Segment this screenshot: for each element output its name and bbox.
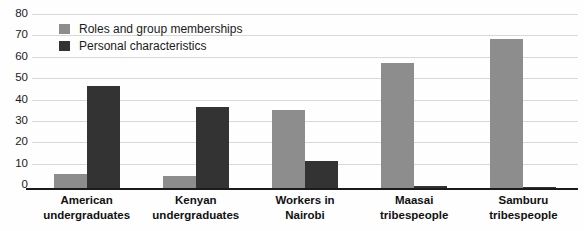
y-axis-tick-label: 0: [2, 179, 28, 191]
bar-personal: [196, 107, 229, 189]
bar-roles: [490, 39, 523, 189]
bar-chart: 01020304050607080 Americanundergraduates…: [0, 0, 584, 231]
category-label-line: Samburu: [458, 193, 584, 208]
y-axis-tick-label: 80: [2, 8, 28, 20]
y-axis-tick-label: 30: [2, 115, 28, 127]
legend-swatch-icon-personal: [59, 41, 70, 51]
x-axis-baseline: [26, 188, 578, 190]
y-axis-tick-label: 50: [2, 72, 28, 84]
category-label: Samburutribespeople: [458, 193, 584, 222]
y-axis-tick-label: 10: [2, 158, 28, 170]
bar-group: [381, 14, 447, 189]
y-axis-tick-label: 70: [2, 30, 28, 42]
chart-legend: Roles and group memberships Personal cha…: [59, 21, 242, 55]
legend-item-roles: Roles and group memberships: [59, 21, 242, 36]
category-label-line: tribespeople: [458, 208, 584, 223]
bar-group: [490, 14, 556, 189]
bar-roles: [381, 63, 414, 189]
legend-swatch-icon-roles: [59, 24, 70, 34]
bar-personal: [87, 86, 120, 189]
bar-roles: [54, 174, 87, 189]
bar-personal: [305, 161, 338, 189]
y-axis-tick-label: 20: [2, 137, 28, 149]
y-axis-tick-label: 60: [2, 51, 28, 63]
legend-item-personal: Personal characteristics: [59, 38, 242, 53]
y-axis-tick-label: 40: [2, 94, 28, 106]
bar-group: [272, 14, 338, 189]
bar-roles: [272, 110, 305, 189]
legend-label-personal: Personal characteristics: [79, 40, 206, 52]
legend-label-roles: Roles and group memberships: [79, 23, 242, 35]
